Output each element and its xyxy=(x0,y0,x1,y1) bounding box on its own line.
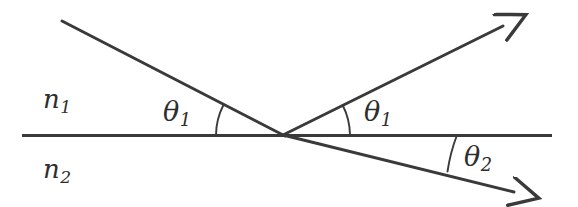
angle-label-theta2-refraction: θ2 xyxy=(464,143,492,174)
angle-arc-incidence xyxy=(216,105,223,135)
angle-label-theta1-reflection-subscript: 1 xyxy=(380,109,392,130)
optics-refraction-diagram: n1 n2 θ1 θ1 θ2 xyxy=(0,0,578,207)
medium-label-n2-subscript: 2 xyxy=(60,167,71,187)
medium-label-n2: n2 xyxy=(43,156,71,186)
angle-label-theta1-incidence-symbol: θ xyxy=(163,96,179,127)
angle-label-theta1-incidence: θ1 xyxy=(163,98,191,129)
medium-label-n1-symbol: n xyxy=(43,84,60,114)
angle-label-theta1-reflection: θ1 xyxy=(364,98,392,129)
angle-arc-reflection xyxy=(343,105,350,135)
angle-label-theta1-incidence-subscript: 1 xyxy=(179,109,191,130)
angle-label-theta2-refraction-symbol: θ xyxy=(464,141,480,172)
medium-label-n2-symbol: n xyxy=(43,154,60,184)
reflected-ray xyxy=(283,26,503,135)
medium-label-n1: n1 xyxy=(43,86,71,116)
angle-label-theta2-refraction-subscript: 2 xyxy=(480,154,492,175)
diagram-canvas xyxy=(0,0,578,207)
medium-label-n1-subscript: 1 xyxy=(60,97,71,117)
angle-arc-refraction xyxy=(448,135,458,172)
angle-label-theta1-reflection-symbol: θ xyxy=(364,96,380,127)
